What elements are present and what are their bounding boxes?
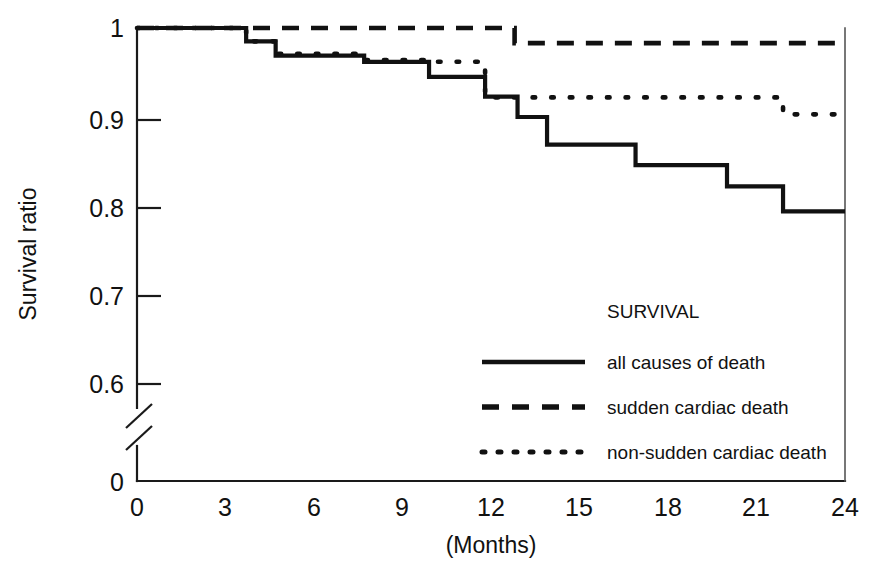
legend-label-non-sudden-cardiac-death: non-sudden cardiac death (607, 442, 827, 463)
legend-label-all-causes-of-death: all causes of death (607, 352, 765, 373)
x-tick-label-24: 24 (831, 493, 859, 521)
curve-sudden-cardiac-death (137, 28, 845, 43)
y-tick-label-0.9: 0.9 (89, 106, 124, 134)
y-tick-label-0: 0 (110, 468, 124, 496)
chart-canvas: 1 0.9 0.8 0.7 0.6 0 0 3 6 9 12 15 18 21 … (0, 0, 891, 572)
x-tick-labels: 0 3 6 9 12 15 18 21 24 (130, 493, 859, 521)
y-tick-label-0.6: 0.6 (89, 370, 124, 398)
y-tick-marks (137, 120, 161, 384)
axis-break-slash-lower (126, 426, 152, 450)
data-curves (137, 28, 845, 211)
x-tick-label-9: 9 (395, 493, 409, 521)
x-axis-title: (Months) (446, 532, 537, 558)
x-tick-label-15: 15 (565, 493, 593, 521)
legend: SURVIVAL all causes of death sudden card… (482, 301, 827, 463)
axis-break-slash-upper (126, 404, 152, 428)
legend-label-sudden-cardiac-death: sudden cardiac death (607, 397, 789, 418)
y-tick-label-1: 1 (110, 14, 124, 42)
x-tick-label-12: 12 (477, 493, 505, 521)
y-axis-title: Survival ratio (15, 188, 41, 321)
x-tick-label-21: 21 (742, 493, 770, 521)
x-tick-label-0: 0 (130, 493, 144, 521)
x-tick-label-18: 18 (654, 493, 682, 521)
legend-title: SURVIVAL (607, 301, 699, 322)
y-tick-label-0.7: 0.7 (89, 282, 124, 310)
x-tick-label-3: 3 (218, 493, 232, 521)
survival-chart-figure: 1 0.9 0.8 0.7 0.6 0 0 3 6 9 12 15 18 21 … (0, 0, 891, 572)
curve-all-causes-of-death (137, 28, 845, 211)
y-axis-break-marks (126, 404, 152, 450)
y-tick-label-0.8: 0.8 (89, 194, 124, 222)
y-tick-labels: 1 0.9 0.8 0.7 0.6 0 (89, 14, 124, 496)
x-tick-label-6: 6 (307, 493, 321, 521)
